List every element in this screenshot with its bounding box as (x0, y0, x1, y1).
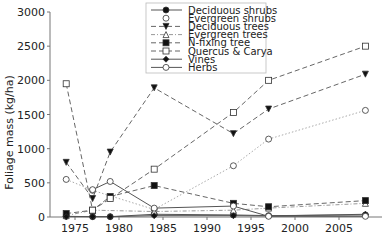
x-tick-label: 2005 (325, 222, 353, 235)
x-tick-label: 1985 (149, 222, 177, 235)
data-point-marker (107, 196, 113, 202)
x-tick-label: 1980 (105, 222, 133, 235)
data-point-marker (90, 207, 96, 213)
series-herbs (90, 178, 369, 219)
data-point-marker (151, 166, 157, 172)
data-point-marker (230, 163, 236, 169)
data-point-marker (90, 187, 96, 193)
series-vines (63, 211, 368, 219)
y-tick-label: 3000 (17, 6, 45, 19)
x-tick-label: 2000 (281, 222, 309, 235)
x-tick-label: 1990 (193, 222, 221, 235)
data-point-marker (266, 77, 272, 83)
series-line (93, 181, 366, 216)
data-point-marker (151, 183, 157, 189)
data-point-marker (362, 71, 368, 77)
legend-marker (163, 7, 169, 13)
data-point-marker (63, 81, 69, 87)
legend: Deciduous shrubsEvergreen shrubsDeciduou… (146, 3, 277, 73)
data-point-marker (107, 178, 113, 184)
foliage-mass-chart: 0500100015002000250030001975198019851990… (0, 0, 388, 237)
y-tick-label: 500 (24, 177, 45, 190)
data-point-marker (230, 131, 236, 137)
data-point-marker (151, 85, 157, 91)
y-axis-label: Foliage mass (kg/ha) (3, 75, 16, 190)
data-point-marker (266, 204, 272, 210)
data-point-marker (107, 149, 113, 155)
data-point-marker (90, 196, 96, 202)
y-tick-label: 0 (38, 211, 45, 224)
data-point-marker (266, 213, 272, 219)
y-tick-label: 1000 (17, 143, 45, 156)
x-tick-label: 1975 (61, 222, 89, 235)
data-point-marker (230, 109, 236, 115)
data-point-marker (63, 176, 69, 182)
data-point-marker (362, 107, 368, 113)
x-tick-label: 1995 (237, 222, 265, 235)
y-tick-label: 2000 (17, 74, 45, 87)
legend-marker (163, 40, 169, 46)
data-point-marker (230, 203, 236, 209)
legend-marker (163, 48, 169, 54)
y-tick-label: 1500 (17, 109, 45, 122)
data-point-marker (362, 198, 368, 204)
data-point-marker (362, 43, 368, 49)
legend-marker (163, 15, 169, 21)
data-point-marker (266, 136, 272, 142)
data-point-marker (266, 106, 272, 112)
data-point-marker (362, 213, 368, 219)
legend-label: Herbs (188, 62, 217, 73)
legend-marker (163, 64, 169, 70)
data-point-marker (151, 205, 157, 211)
y-tick-label: 2500 (17, 40, 45, 53)
